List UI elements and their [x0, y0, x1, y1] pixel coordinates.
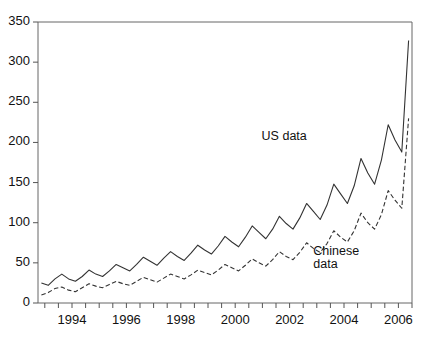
y-axis-ticks	[33, 22, 38, 303]
x-axis-tick-label: 1994	[42, 312, 102, 327]
y-axis-tick-label: 350	[8, 13, 30, 28]
x-axis-tick-label: 2002	[260, 312, 320, 327]
chart-plot-area	[0, 0, 426, 339]
y-axis-tick-label: 0	[23, 294, 30, 309]
y-axis-tick-label: 300	[8, 53, 30, 68]
y-axis-tick-label: 100	[8, 214, 30, 229]
x-axis-tick-label: 2004	[314, 312, 374, 327]
y-axis-tick-label: 250	[8, 93, 30, 108]
series-annotation-label: US data	[262, 130, 307, 143]
y-axis-tick-label: 50	[16, 254, 30, 269]
chart-container: 050100150200250300350 199419961998200020…	[0, 0, 426, 339]
x-axis-tick-label: 1998	[151, 312, 211, 327]
y-axis-tick-label: 200	[8, 133, 30, 148]
x-axis-tick-label: 2006	[368, 312, 426, 327]
y-axis-tick-label: 150	[8, 174, 30, 189]
x-axis-tick-label: 2000	[205, 312, 265, 327]
x-axis-tick-label: 1996	[96, 312, 156, 327]
x-axis-ticks	[45, 303, 412, 308]
series-annotation-label: Chinese data	[313, 245, 359, 271]
